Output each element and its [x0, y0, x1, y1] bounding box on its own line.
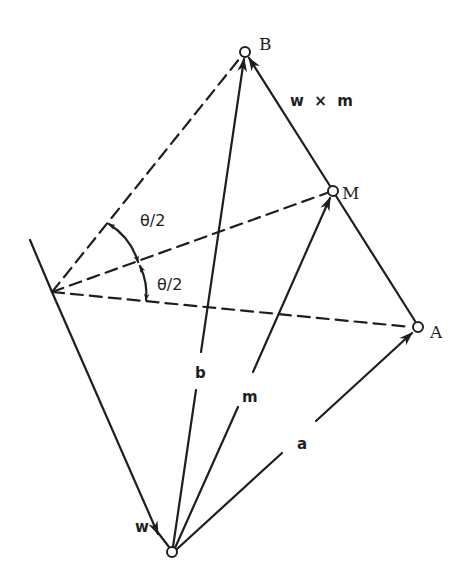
vector-diagram: B M A w × m b m a w θ/2 θ/2: [0, 0, 469, 583]
edge-a-m: [336, 196, 415, 321]
dashed-line-p-a: [52, 292, 411, 327]
label-vector-wxm: w × m: [290, 92, 353, 110]
vector-a-line-lower: [177, 453, 282, 549]
point-o-marker: [167, 547, 177, 557]
vector-m-line-upper: [253, 198, 330, 372]
label-vector-m: m: [242, 388, 258, 406]
label-vector-a: a: [297, 435, 307, 453]
label-m: M: [342, 183, 359, 203]
point-m-marker: [328, 186, 338, 196]
dashed-line-p-m: [52, 193, 327, 292]
label-angle-lower: θ/2: [157, 275, 182, 294]
vector-a-line-upper: [316, 333, 412, 421]
label-angle-upper: θ/2: [140, 211, 165, 230]
vector-m-line-lower: [175, 407, 238, 548]
vector-wxm-line: [249, 58, 330, 186]
label-b: B: [259, 34, 272, 54]
angle-arc-lower: [140, 266, 146, 300]
vector-b-line-lower: [173, 390, 196, 547]
label-vector-w: w: [135, 518, 149, 536]
point-a-marker: [413, 322, 423, 332]
dashed-line-p-b: [52, 58, 240, 292]
vector-w-line: [52, 292, 158, 534]
point-b-marker: [240, 47, 250, 57]
label-vector-b: b: [195, 364, 206, 382]
axis-line-upper: [30, 240, 52, 292]
vector-w-line-tail: [156, 530, 169, 547]
angle-arc-upper: [109, 224, 138, 262]
label-a: A: [429, 322, 443, 342]
